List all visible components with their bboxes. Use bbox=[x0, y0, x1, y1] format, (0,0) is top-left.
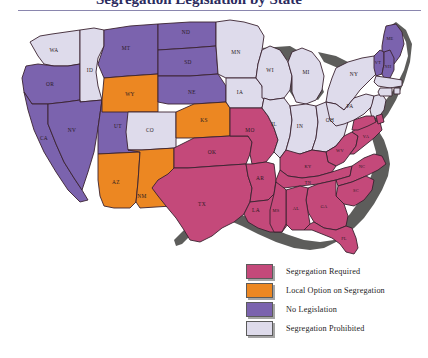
state-label-mi: MI bbox=[302, 69, 309, 75]
legend-item-local-option[interactable]: Local Option on Segregation bbox=[246, 281, 424, 300]
legend-item-prohibited[interactable]: Segregation Prohibited bbox=[246, 319, 424, 338]
legend-label-local-option: Local Option on Segregation bbox=[286, 286, 385, 295]
state-label-pa: PA bbox=[347, 103, 354, 109]
legend-swatch-prohibited bbox=[246, 321, 273, 336]
state-ct[interactable] bbox=[378, 88, 392, 96]
state-label-nv: NV bbox=[68, 127, 76, 133]
state-mi[interactable] bbox=[288, 48, 324, 104]
state-label-tn: TN bbox=[305, 180, 312, 185]
state-label-ny: NY bbox=[350, 71, 358, 77]
state-label-ar: AR bbox=[256, 175, 264, 181]
state-label-wi: WI bbox=[266, 67, 273, 73]
state-label-mn: MN bbox=[231, 49, 240, 55]
state-ia[interactable] bbox=[226, 78, 264, 108]
state-label-co: CO bbox=[146, 127, 154, 133]
map-figure: Segregation Legislation by State bbox=[0, 0, 428, 358]
legend-swatch-required bbox=[246, 264, 273, 279]
state-label-fl: FL bbox=[341, 236, 347, 241]
state-label-ks: KS bbox=[200, 117, 208, 123]
state-label-la: LA bbox=[252, 207, 260, 213]
state-mt[interactable] bbox=[98, 24, 158, 78]
state-shapes bbox=[22, 20, 404, 254]
state-label-ga: GA bbox=[321, 204, 328, 209]
state-nv[interactable] bbox=[48, 100, 102, 190]
state-label-wy: WY bbox=[125, 91, 135, 97]
state-label-ms: MS bbox=[273, 208, 280, 213]
us-map: WA OR ID MT CA NV UT AZ NM WY CO ND SD N… bbox=[18, 12, 428, 260]
state-label-az: AZ bbox=[112, 179, 120, 185]
legend-item-no-legislation[interactable]: No Legislation bbox=[246, 300, 424, 319]
state-label-oh: OH bbox=[326, 117, 334, 123]
legend-label-required: Segregation Required bbox=[286, 267, 360, 276]
state-label-tx: TX bbox=[198, 201, 206, 207]
legend-swatch-local-option bbox=[246, 283, 273, 298]
state-label-nc: NC bbox=[359, 164, 366, 169]
state-ri[interactable] bbox=[394, 88, 400, 94]
state-label-mt: MT bbox=[122, 45, 131, 51]
state-label-al: AL bbox=[293, 206, 299, 211]
state-label-nd: ND bbox=[182, 29, 190, 35]
state-nd[interactable] bbox=[158, 22, 216, 50]
state-label-il: IL bbox=[271, 121, 277, 127]
legend-label-prohibited: Segregation Prohibited bbox=[286, 324, 365, 333]
figure-title-clipped: Segregation Legislation by State bbox=[0, 0, 428, 9]
state-label-ut: UT bbox=[114, 123, 122, 129]
state-label-wa: WA bbox=[50, 47, 59, 53]
state-label-in: IN bbox=[297, 123, 303, 129]
state-de[interactable] bbox=[376, 114, 384, 124]
us-map-svg: WA OR ID MT CA NV UT AZ NM WY CO ND SD N… bbox=[18, 12, 428, 260]
state-label-ne: NE bbox=[188, 89, 196, 95]
state-label-va: VA bbox=[363, 134, 370, 139]
legend-item-required[interactable]: Segregation Required bbox=[246, 262, 424, 281]
state-label-ca: CA bbox=[40, 135, 48, 141]
state-label-wv: WV bbox=[336, 148, 344, 153]
figure-title-text: Segregation Legislation by State bbox=[96, 0, 302, 8]
state-label-ky: KY bbox=[305, 164, 312, 169]
state-label-nm: NM bbox=[137, 193, 146, 199]
title-divider-rule bbox=[18, 10, 421, 11]
state-label-me: ME bbox=[386, 36, 393, 41]
legend-label-no-legislation: No Legislation bbox=[286, 305, 337, 314]
state-label-ok: OK bbox=[208, 149, 216, 155]
state-label-ia: IA bbox=[237, 89, 243, 95]
state-label-mo: MO bbox=[245, 127, 254, 133]
state-label-vt: VT bbox=[375, 60, 381, 65]
map-legend: Segregation Required Local Option on Seg… bbox=[246, 262, 424, 338]
state-ma[interactable] bbox=[374, 76, 402, 88]
state-label-sd: SD bbox=[184, 59, 192, 65]
state-label-sc: SC bbox=[353, 188, 359, 193]
state-label-or: OR bbox=[46, 81, 54, 87]
state-label-nh: NH bbox=[385, 64, 392, 69]
state-label-id: ID bbox=[87, 67, 93, 73]
legend-swatch-no-legislation bbox=[246, 302, 273, 317]
